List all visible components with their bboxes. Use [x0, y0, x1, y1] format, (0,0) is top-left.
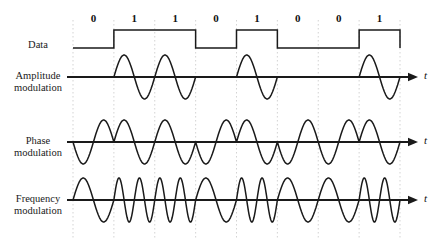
row-label-line1: Data — [5, 39, 71, 51]
axis-arrowhead — [408, 73, 418, 81]
row-label-frequency-modulation: Frequencymodulation — [5, 193, 71, 218]
time-axes — [67, 73, 418, 204]
modulation-diagram: 01101001 DataAmplitudemodulationPhasemod… — [0, 0, 442, 252]
bit-label: 0 — [213, 12, 219, 24]
row-label-line1: Phase — [5, 135, 71, 147]
row-label-line1: Frequency — [5, 193, 71, 205]
bit-boundary-gridlines — [73, 20, 400, 240]
axis-label-t: t — [424, 192, 427, 204]
row-label-data: Data — [5, 39, 71, 51]
row-label-phase-modulation: Phasemodulation — [5, 135, 71, 160]
axis-label-t: t — [424, 134, 427, 146]
bit-label: 0 — [295, 12, 301, 24]
bit-label: 0 — [91, 12, 97, 24]
bit-label: 1 — [377, 12, 383, 24]
bit-label: 1 — [172, 12, 178, 24]
row-label-line2: modulation — [5, 147, 71, 159]
axis-arrowhead — [408, 138, 418, 146]
row-label-line2: modulation — [5, 205, 71, 217]
row-label-line1: Amplitude — [5, 70, 71, 82]
bit-label: 1 — [254, 12, 260, 24]
axis-label-t: t — [424, 69, 427, 81]
axis-arrowhead — [408, 196, 418, 204]
data-square-wave — [73, 30, 400, 48]
bit-label: 1 — [132, 12, 138, 24]
row-label-amplitude-modulation: Amplitudemodulation — [5, 70, 71, 95]
bit-label: 0 — [336, 12, 342, 24]
row-label-line2: modulation — [5, 82, 71, 94]
